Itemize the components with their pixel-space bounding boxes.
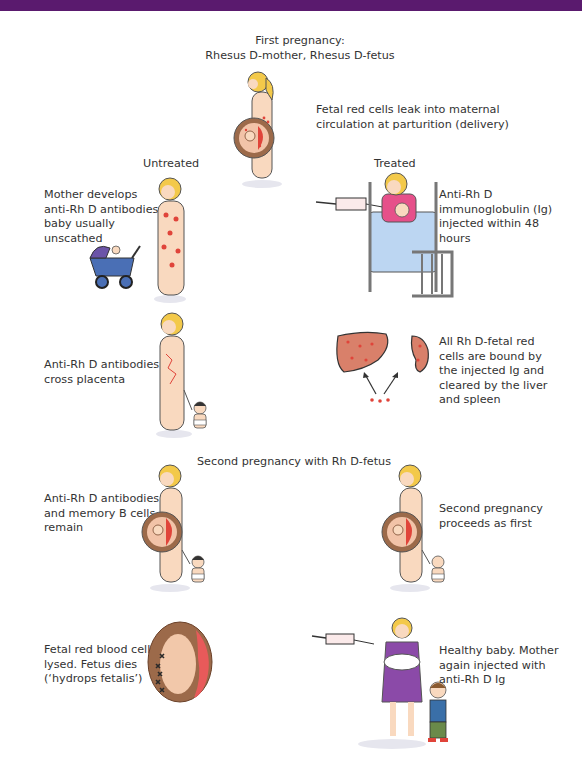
text-line: cells are bound by	[439, 350, 579, 365]
spleen-icon	[412, 336, 429, 372]
text-line: the injected Ig and	[439, 364, 579, 379]
pregnant-mother-with-child-figure-untreated	[136, 464, 216, 594]
text-line: All Rh D-fetal red	[439, 335, 579, 350]
treated-step1-text: Anti-Rh D immunoglobulin (Ig) injected w…	[439, 188, 579, 246]
text-line: Second pregnancy	[439, 502, 579, 517]
first-pregnancy-caption-line2: circulation at parturition (delivery)	[316, 118, 576, 133]
syringe-icon	[336, 198, 366, 210]
text-line: injected within 48	[439, 217, 579, 232]
mother-in-bed-injection-figure	[316, 172, 456, 298]
untreated-heading: Untreated	[143, 157, 199, 170]
text-line: anti-Rh D Ig	[439, 673, 579, 688]
treated-step2-text: All Rh D-fetal red cells are bound by th…	[439, 335, 579, 408]
second-pregnancy-title: Second pregnancy with Rh D-fetus	[197, 455, 391, 468]
treated-step4-text: Healthy baby. Mother again injected with…	[439, 644, 579, 688]
text-line: Anti-Rh D	[439, 188, 579, 203]
hydrops-fetalis-womb-icon	[146, 618, 218, 708]
healthy-baby-family-figure	[312, 620, 452, 750]
liver-spleen-clearance-diagram	[334, 330, 434, 406]
pregnant-mother-figure	[228, 70, 298, 190]
header-bar	[0, 0, 582, 11]
text-line: again injected with	[439, 659, 579, 674]
text-line: hours	[439, 232, 579, 247]
first-pregnancy-caption: Fetal red cells leak into maternal circu…	[316, 103, 576, 132]
first-pregnancy-title: First pregnancy: Rhesus D-mother, Rhesus…	[160, 34, 440, 63]
first-pregnancy-title-line1: First pregnancy:	[160, 34, 440, 49]
syringe-icon	[326, 634, 354, 644]
text-line: cleared by the liver	[439, 379, 579, 394]
text-line: immunoglobulin (Ig)	[439, 203, 579, 218]
text-line: and spleen	[439, 393, 579, 408]
treated-heading: Treated	[374, 157, 416, 170]
treated-step3-text: Second pregnancy proceeds as first	[439, 502, 579, 531]
mother-antibodies-figure	[146, 175, 196, 305]
text-line: proceeds as first	[439, 517, 579, 532]
mother-with-child-figure	[146, 310, 216, 440]
first-pregnancy-title-line2: Rhesus D-mother, Rhesus D-fetus	[160, 49, 440, 64]
pram-icon	[86, 236, 146, 292]
text-line: Healthy baby. Mother	[439, 644, 579, 659]
first-pregnancy-caption-line1: Fetal red cells leak into maternal	[316, 103, 576, 118]
liver-icon	[337, 332, 388, 372]
